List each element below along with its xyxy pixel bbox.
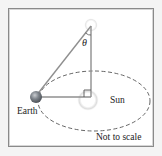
sun-label: Sun	[110, 95, 125, 105]
angle-label: θ	[82, 37, 87, 48]
earth-icon	[30, 91, 42, 103]
parallax-diagram: θ Earth Sun Not to scale	[0, 0, 162, 156]
not-to-scale-note: Not to scale	[96, 132, 141, 142]
sun-icon	[77, 89, 99, 111]
angle-arc	[86, 33, 92, 35]
earth-label: Earth	[17, 106, 38, 116]
